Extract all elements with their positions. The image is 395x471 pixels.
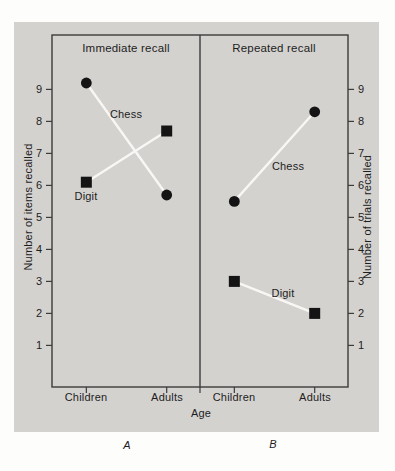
series-label-digit-a: Digit — [74, 190, 97, 202]
y-tick-label-left: 2 — [36, 307, 42, 319]
data-point-digit-a-children — [81, 177, 92, 188]
y-tick-label-right: 2 — [358, 307, 364, 319]
y-tick-label-left: 9 — [36, 83, 42, 95]
data-point-digit-b-children — [229, 276, 240, 287]
data-point-chess-b-adults — [309, 106, 320, 117]
data-point-chess-a-children — [81, 78, 92, 89]
y-tick-label-right: 8 — [358, 115, 364, 127]
y-tick-label-left: 3 — [36, 275, 42, 287]
x-axis-label: Age — [191, 407, 211, 419]
data-point-digit-b-adults — [309, 308, 320, 319]
panel-b-title: Repeated recall — [232, 42, 316, 54]
y-tick-label-left: 6 — [36, 179, 42, 191]
figure: 112233445566778899 Immediate recall Repe… — [0, 0, 395, 471]
y-tick-label-left: 7 — [36, 147, 42, 159]
y-tick-label-left: 4 — [36, 243, 42, 255]
y-tick-label-left: 1 — [36, 339, 42, 351]
data-point-chess-a-adults — [161, 190, 172, 201]
series-label-digit-b: Digit — [271, 287, 294, 299]
panel-a-title: Immediate recall — [82, 42, 170, 54]
x-tick-label-children-a: Children — [65, 391, 108, 403]
panel-b-letter: B — [269, 438, 277, 450]
y-tick-label-right: 1 — [358, 339, 364, 351]
chart-canvas: 112233445566778899 — [0, 0, 395, 471]
data-point-chess-b-children — [229, 196, 240, 207]
data-point-digit-a-adults — [161, 126, 172, 137]
y-axis-label-right: Number of trials recalled — [361, 155, 373, 279]
series-label-chess-b: Chess — [272, 160, 304, 172]
y-tick-label-right: 9 — [358, 83, 364, 95]
series-line-chess-b — [234, 112, 314, 202]
panel-a-letter: A — [123, 439, 131, 451]
y-axis-label-left: Number of items recalled — [22, 143, 34, 270]
x-tick-label-adults-a: Adults — [151, 391, 183, 403]
series-label-chess-a: Chess — [110, 108, 142, 120]
x-tick-label-adults-b: Adults — [299, 391, 331, 403]
y-tick-label-left: 8 — [36, 115, 42, 127]
y-tick-label-left: 5 — [36, 211, 42, 223]
x-tick-label-children-b: Children — [213, 391, 256, 403]
